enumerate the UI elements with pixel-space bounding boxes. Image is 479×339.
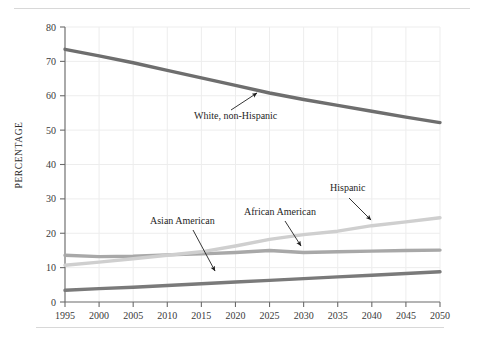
chart-figure: PERCENTAGE 01020304050607080 19952000200…: [0, 0, 479, 339]
y-tick-label: 70: [46, 56, 56, 67]
y-tick-labels-group: 01020304050607080: [46, 22, 56, 308]
x-tick-label: 1995: [55, 310, 75, 321]
x-tick-label: 2015: [191, 310, 211, 321]
series-annotation-label: Hispanic: [330, 182, 366, 193]
y-tick-label: 10: [46, 262, 56, 273]
series-annotation-label: African American: [244, 206, 316, 217]
x-tick-label: 2035: [328, 310, 348, 321]
x-tick-label: 2005: [123, 310, 143, 321]
y-tick-label: 60: [46, 90, 56, 101]
series-line: [65, 272, 440, 291]
series-line: [65, 250, 440, 257]
y-tick-label: 30: [46, 193, 56, 204]
y-tick-label: 50: [46, 125, 56, 136]
line-chart-svg: 01020304050607080 1995200020052010201520…: [0, 0, 479, 339]
axes-group: [60, 27, 440, 307]
annotation-arrow: [349, 198, 371, 220]
series-line: [65, 218, 440, 265]
x-tick-label: 2025: [260, 310, 280, 321]
y-tick-label: 0: [51, 297, 56, 308]
data-series-group: [65, 49, 440, 290]
x-tick-label: 2040: [362, 310, 382, 321]
x-tick-label: 2030: [294, 310, 314, 321]
x-tick-label: 2000: [89, 310, 109, 321]
series-annotation-label: Asian American: [150, 215, 215, 226]
x-tick-label: 2010: [157, 310, 177, 321]
series-annotation-label: White, non-Hispanic: [194, 110, 278, 121]
x-tick-label: 2045: [396, 310, 416, 321]
y-tick-label: 40: [46, 159, 56, 170]
y-tick-label: 20: [46, 228, 56, 239]
y-tick-label: 80: [46, 22, 56, 33]
x-tick-label: 2050: [430, 310, 450, 321]
x-tick-label: 2020: [225, 310, 245, 321]
x-tick-labels-group: 1995200020052010201520202025203020352040…: [55, 310, 450, 321]
